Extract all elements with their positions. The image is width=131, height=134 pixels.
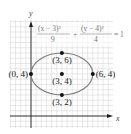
ellipse-graph: x y (x − 3)² 9 + (y − 4)² 4 = 1 (3, 6)(0…: [0, 0, 131, 134]
point-label: (3, 4): [52, 76, 72, 86]
x-axis-arrow-icon: [107, 114, 113, 118]
y-axis-label: y: [28, 9, 33, 18]
y-axis-arrow-icon: [29, 21, 33, 27]
equation-term1-denominator: 9: [51, 35, 55, 44]
equation-plus: +: [73, 30, 77, 39]
point-label: (3, 2): [52, 97, 72, 107]
equation-term2-denominator: 4: [94, 35, 98, 44]
point-label: (3, 6): [52, 55, 72, 65]
equation-equals: = 1: [114, 30, 124, 39]
point-label: (0, 4): [9, 69, 29, 79]
point-marker: [91, 72, 95, 76]
x-axis-label: x: [115, 114, 120, 123]
equation-term2-numerator: (y − 4)²: [81, 24, 104, 33]
point-marker: [29, 72, 33, 76]
equation-term1-numerator: (x − 3)²: [38, 24, 61, 33]
point-label: (6, 4): [96, 69, 116, 79]
equation: (x − 3)² 9 + (y − 4)² 4 = 1: [36, 22, 124, 46]
